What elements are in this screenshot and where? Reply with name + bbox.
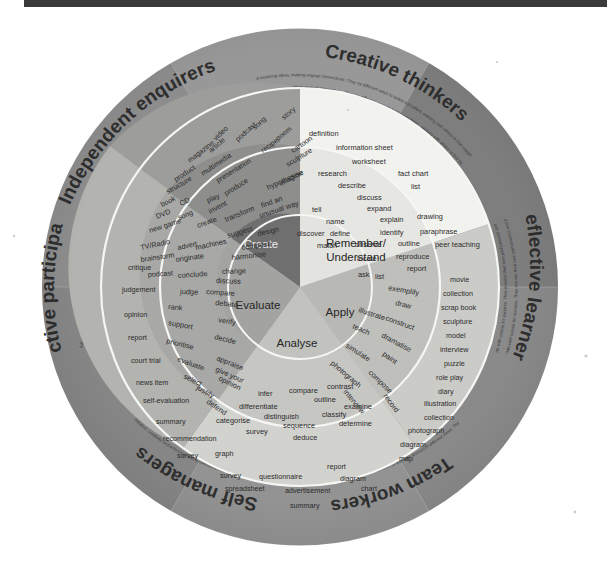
verb-remember-7: list xyxy=(411,182,420,191)
product-apply-2: scrap book xyxy=(441,303,477,312)
product-analyse-1: survey xyxy=(220,471,242,480)
verb-analyse-1: compare xyxy=(289,386,318,395)
product-apply-1: collection xyxy=(443,289,473,298)
verb-analyse-8: categorise xyxy=(216,416,250,425)
verb-remember-17: match xyxy=(317,241,337,250)
verb-analyse-3: outline xyxy=(314,395,336,404)
product-evaluate-1: judgement xyxy=(121,285,156,294)
verb-remember-8: tell xyxy=(312,205,322,214)
plts-title-effective-participators: Effective participators xyxy=(0,0,67,355)
verb-remember-18: observe xyxy=(355,240,381,249)
verb-analyse-6: distinguish xyxy=(264,412,299,421)
core-label-apply: Apply xyxy=(326,306,355,318)
product-analyse-8: summary xyxy=(290,501,320,510)
verb-remember-13: discover xyxy=(297,229,325,238)
product-analyse-3: report xyxy=(327,462,346,471)
product-apply-4: model xyxy=(446,331,466,340)
verb-remember-6: discuss xyxy=(357,193,382,202)
product-evaluate-2: opinion xyxy=(124,310,147,319)
scanned-page: Independent enquirers Creative thinkers … xyxy=(0,0,607,569)
verb-analyse-2: contrast xyxy=(327,382,353,391)
verb-remember-4: describe xyxy=(338,181,366,190)
product-apply-6: puzzle xyxy=(444,359,465,368)
verb-analyse-5: examine xyxy=(344,402,372,411)
verb-analyse-0: infer xyxy=(258,389,273,398)
product-apply-3: sculpture xyxy=(443,317,472,326)
verb-remember-19: outline xyxy=(398,239,420,248)
verb-remember-25: report xyxy=(407,264,426,273)
verb-remember-20: peer teaching xyxy=(435,240,480,249)
product-evaluate-9: survey xyxy=(177,451,199,460)
verb-evaluate-1: discuss xyxy=(216,276,241,286)
verb-remember-23: ask xyxy=(358,270,370,279)
verb-evaluate-2: judge xyxy=(179,287,198,297)
product-apply-7: role play xyxy=(436,373,464,382)
product-analyse-6: advertisement xyxy=(285,486,330,495)
product-apply-10: collection xyxy=(424,413,454,422)
verb-remember-1: information sheet xyxy=(336,143,393,152)
verb-remember-2: worksheet xyxy=(351,157,386,166)
verb-remember-14: define xyxy=(330,229,350,238)
verb-analyse-11: survey xyxy=(246,427,268,436)
product-apply-8: diary xyxy=(438,387,454,396)
verb-analyse-12: deduce xyxy=(293,433,317,442)
product-evaluate-4: court trial xyxy=(131,356,161,365)
product-evaluate-7: summary xyxy=(156,417,186,426)
verb-remember-22: reproduce xyxy=(396,252,429,261)
verb-remember-16: paraphrase xyxy=(420,227,457,236)
verb-analyse-9: sequence xyxy=(283,421,315,430)
verb-remember-9: expand xyxy=(367,204,391,213)
product-apply-0: movie xyxy=(450,275,469,284)
blooms-taxonomy-wheel: Independent enquirers Creative thinkers … xyxy=(0,0,607,569)
verb-evaluate-5: rank xyxy=(168,302,184,312)
product-create-24: podcast xyxy=(148,268,174,279)
verb-remember-3: research xyxy=(318,169,347,178)
core-label-remember-line2: Understand xyxy=(326,251,385,263)
verb-remember-24: list xyxy=(375,272,384,281)
product-apply-12: diagram xyxy=(400,440,426,449)
verb-remember-15: identify xyxy=(380,228,404,237)
product-apply-9: illustration xyxy=(424,399,456,408)
product-evaluate-8: recommendation xyxy=(163,434,217,443)
verb-remember-21: locate xyxy=(357,254,377,263)
verb-create-13: change xyxy=(222,266,247,276)
verb-analyse-10: determine xyxy=(339,419,372,428)
verb-remember-11: explain xyxy=(380,215,403,224)
verb-remember-10: name xyxy=(326,217,345,226)
product-analyse-7: chart xyxy=(361,484,377,493)
core-label-analyse: Analyse xyxy=(277,337,318,349)
product-evaluate-6: self-evaluation xyxy=(143,396,189,405)
product-analyse-4: diagram xyxy=(340,474,366,483)
verb-analyse-7: classify xyxy=(322,410,347,419)
verb-analyse-4: differentiate xyxy=(239,402,278,411)
verb-remember-12: drawing xyxy=(417,212,443,221)
product-evaluate-5: news item xyxy=(136,378,168,387)
product-apply-5: interview xyxy=(440,345,469,354)
product-analyse-5: spreadsheet xyxy=(225,484,265,493)
product-apply-11: photograph xyxy=(408,426,444,435)
verb-remember-0: definition xyxy=(309,129,339,138)
verb-remember-5: fact chart xyxy=(398,169,428,178)
core-label-evaluate: Evaluate xyxy=(236,299,281,311)
product-analyse-0: graph xyxy=(215,449,233,458)
product-evaluate-3: report xyxy=(128,333,147,342)
product-apply-13: map xyxy=(399,454,413,463)
product-evaluate-0: critique xyxy=(128,263,151,272)
product-analyse-2: questionnaire xyxy=(259,472,302,481)
